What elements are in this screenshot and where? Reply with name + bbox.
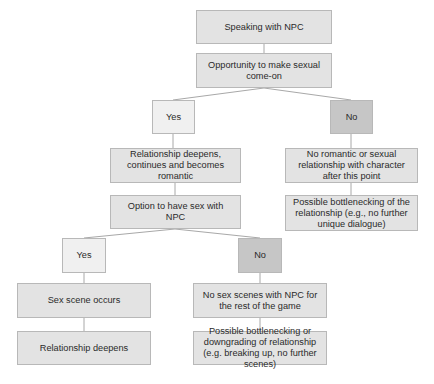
node-no-come-on: No [330, 100, 373, 134]
node-speaking-with-npc: Speaking with NPC [196, 10, 332, 44]
node-opportunity-come-on: Opportunity to make sexual come-on [196, 53, 332, 88]
node-option-sex: Option to have sex with NPC [110, 195, 241, 229]
node-bottleneck-breakup: Possible bottlenecking or downgrading of… [193, 331, 327, 365]
node-no-sex: No [238, 238, 282, 273]
flowchart: Speaking with NPC Opportunity to make se… [0, 0, 434, 384]
node-no-sex-scenes: No sex scenes with NPC for the rest of t… [193, 283, 327, 318]
node-yes-come-on: Yes [152, 100, 195, 134]
node-yes-sex: Yes [62, 238, 106, 273]
node-no-romantic-relationship: No romantic or sexual relationship with … [285, 148, 418, 183]
node-sex-scene-occurs: Sex scene occurs [17, 283, 151, 318]
node-relationship-deepens: Relationship deepens [17, 331, 151, 365]
node-relationship-romantic: Relationship deepens, continues and beco… [110, 148, 241, 183]
node-bottleneck-dialogue: Possible bottlenecking of the relationsh… [285, 195, 418, 231]
